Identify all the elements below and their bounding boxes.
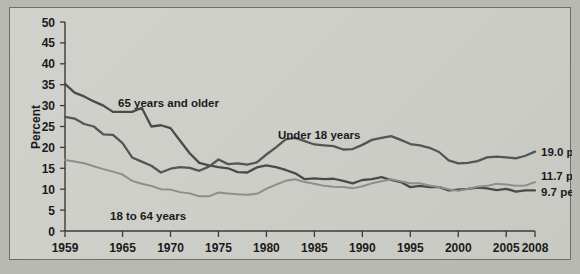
- y-tick-label: 15: [42, 162, 56, 176]
- x-tick-label: 1970: [157, 241, 184, 255]
- x-tick-label: 1980: [253, 241, 280, 255]
- x-tick-label: 1965: [109, 241, 136, 255]
- y-axis-title: Percent: [29, 105, 43, 149]
- x-tick-labels: 1959196519701975198019851990199520002005…: [52, 231, 549, 255]
- end-label-18-to-64: 11.7 percent: [541, 170, 572, 182]
- y-tick-label: 45: [42, 36, 56, 50]
- y-tick-label: 10: [42, 183, 56, 197]
- y-tick-label: 30: [42, 99, 56, 113]
- series-label-65-and-older: 65 years and older: [118, 97, 220, 109]
- y-tick-label: 20: [42, 141, 56, 155]
- x-tick-label: 1995: [397, 241, 424, 255]
- x-tick-label: 1990: [349, 241, 376, 255]
- x-tick-label: 1985: [301, 241, 328, 255]
- series-label-under-18: Under 18 years: [278, 129, 360, 141]
- y-tick-label: 50: [42, 16, 56, 30]
- y-tick-label: 0: [48, 225, 55, 239]
- y-tick-label: 35: [42, 78, 56, 92]
- y-tick-label: 5: [48, 204, 55, 218]
- series-line: [65, 117, 535, 173]
- poverty-rate-line-chart: 05101520253035404550 1959196519701975198…: [10, 8, 572, 261]
- chart-frame: 05101520253035404550 1959196519701975198…: [9, 7, 571, 260]
- end-label-under-18: 19.0 percent: [541, 146, 572, 158]
- y-tick-label: 40: [42, 57, 56, 71]
- series-line: [65, 160, 535, 196]
- x-tick-label: 2005: [493, 241, 520, 255]
- x-tick-label: 2008: [522, 241, 549, 255]
- x-tick-label: 1959: [52, 241, 79, 255]
- y-tick-labels: 05101520253035404550: [42, 16, 65, 239]
- series-label-18-to-64: 18 to 64 years: [110, 210, 186, 222]
- chart-plot-area: 05101520253035404550 1959196519701975198…: [10, 8, 570, 259]
- end-label-65-and-older: 9.7 percent: [541, 186, 572, 198]
- y-tick-label: 25: [42, 120, 56, 134]
- x-tick-label: 1975: [205, 241, 232, 255]
- x-tick-label: 2000: [445, 241, 472, 255]
